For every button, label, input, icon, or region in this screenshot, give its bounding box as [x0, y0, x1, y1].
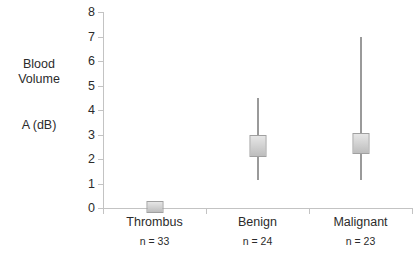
y-axis-tick-mark [98, 86, 103, 87]
x-axis-separator-tick [103, 208, 104, 214]
y-axis-tick-mark [98, 135, 103, 136]
y-axis-tick-label: 5 [88, 79, 95, 93]
category-label: Malignant [333, 215, 387, 229]
category-sample-size: n = 23 [346, 235, 376, 247]
y-axis-tick-label: 7 [88, 30, 95, 44]
y-axis-line [103, 12, 104, 208]
data-marker-box [249, 135, 266, 157]
error-bar-whisker [360, 37, 362, 180]
category-sample-size: n = 24 [243, 235, 273, 247]
data-marker-box [352, 133, 369, 154]
y-axis-tick-label: 2 [88, 152, 95, 166]
y-axis-title-line-2: Volume [0, 72, 78, 87]
y-axis-tick-mark [98, 159, 103, 160]
x-axis-separator-tick [206, 208, 207, 214]
y-axis-tick-mark [98, 12, 103, 13]
x-axis-separator-tick [412, 208, 413, 214]
chart-container: Blood Volume A (dB) 012345678 Thrombusn … [0, 0, 415, 258]
y-axis-tick-label: 4 [88, 103, 95, 117]
y-axis-tick-label: 1 [88, 177, 95, 191]
x-axis-separator-tick [309, 208, 310, 214]
plot-area: 012345678 [103, 12, 412, 208]
y-axis-tick-label: 3 [88, 128, 95, 142]
y-axis-tick-label: 6 [88, 54, 95, 68]
y-axis-tick-label: 8 [88, 5, 95, 19]
data-marker-box [146, 201, 163, 213]
y-axis-title-line-3: A (dB) [0, 118, 78, 133]
y-axis-tick-mark [98, 61, 103, 62]
y-axis-title-line-1: Blood [0, 57, 78, 72]
category-label: Thrombus [126, 215, 182, 229]
category-label: Benign [238, 215, 277, 229]
y-axis-tick-mark [98, 184, 103, 185]
category-sample-size: n = 33 [140, 235, 170, 247]
y-axis-tick-mark [98, 110, 103, 111]
y-axis-tick-mark [98, 37, 103, 38]
y-axis-tick-label: 0 [88, 201, 95, 215]
